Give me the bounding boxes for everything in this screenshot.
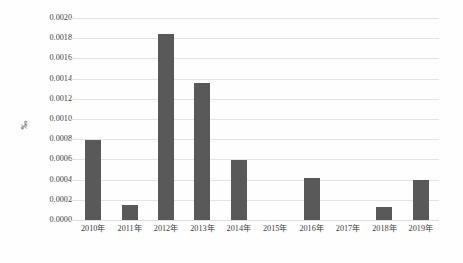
plot-area bbox=[75, 18, 439, 220]
y-axis-tick-label: 0.0002 bbox=[26, 196, 72, 204]
x-axis-tick-label: 2010年 bbox=[75, 224, 111, 234]
bar-slot bbox=[148, 18, 184, 220]
y-axis-tick-label: 0.0020 bbox=[26, 14, 72, 22]
x-axis-tick-label: 2015年 bbox=[257, 224, 293, 234]
x-axis-tick-label: 2012年 bbox=[148, 224, 184, 234]
bar-slot bbox=[330, 18, 366, 220]
x-axis-tick-label: 2019年 bbox=[403, 224, 439, 234]
bar bbox=[194, 83, 210, 220]
bar bbox=[304, 178, 320, 220]
bar-slot bbox=[403, 18, 439, 220]
bar-series bbox=[75, 18, 439, 220]
bar bbox=[376, 207, 392, 220]
bar bbox=[85, 140, 101, 220]
bar-slot bbox=[257, 18, 293, 220]
x-axis-tick-labels: 2010年2011年2012年2013年2014年2015年2016年2017年… bbox=[75, 224, 439, 240]
bar bbox=[122, 205, 138, 220]
y-axis-tick-label: 0.0018 bbox=[26, 34, 72, 42]
x-axis-tick-label: 2013年 bbox=[184, 224, 220, 234]
bar-slot bbox=[184, 18, 220, 220]
bar bbox=[231, 160, 247, 220]
bar-slot bbox=[75, 18, 111, 220]
bar-chart: ‰ 0.00200.00180.00160.00140.00120.00100.… bbox=[0, 0, 463, 263]
bar-slot bbox=[221, 18, 257, 220]
y-axis-tick-label: 0.0004 bbox=[26, 175, 72, 183]
bar bbox=[158, 34, 174, 220]
x-axis-tick-label: 2016年 bbox=[293, 224, 329, 234]
x-axis-tick-label: 2014年 bbox=[221, 224, 257, 234]
x-axis-tick-label: 2011年 bbox=[111, 224, 147, 234]
y-axis-tick-label: 0.0008 bbox=[26, 135, 72, 143]
gridline bbox=[75, 220, 439, 221]
bar-slot bbox=[366, 18, 402, 220]
y-axis-tick-label: 0.0016 bbox=[26, 54, 72, 62]
x-axis-tick-label: 2018年 bbox=[366, 224, 402, 234]
y-axis-tick-label: 0.0006 bbox=[26, 155, 72, 163]
y-axis-tick-label: 0.0000 bbox=[26, 216, 72, 224]
x-axis-tick-label: 2017年 bbox=[330, 224, 366, 234]
y-axis-tick-labels: 0.00200.00180.00160.00140.00120.00100.00… bbox=[26, 18, 72, 220]
bar bbox=[413, 180, 429, 220]
bar-slot bbox=[293, 18, 329, 220]
bar-slot bbox=[111, 18, 147, 220]
y-axis-tick-label: 0.0012 bbox=[26, 95, 72, 103]
y-axis-tick-label: 0.0014 bbox=[26, 74, 72, 82]
y-axis-tick-mark bbox=[71, 220, 75, 221]
y-axis-tick-label: 0.0010 bbox=[26, 115, 72, 123]
